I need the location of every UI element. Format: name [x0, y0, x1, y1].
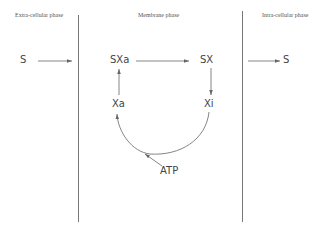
- intracellular-phase-label: Intra-cellular phase: [262, 12, 308, 18]
- diagram-lines: [0, 0, 331, 232]
- membrane-phase-label: Membrane phase: [138, 12, 179, 18]
- node-atp: ATP: [160, 166, 178, 176]
- node-sx: SX: [200, 55, 213, 65]
- node-sxa: SXa: [110, 55, 129, 65]
- node-s-outside: S: [20, 55, 26, 65]
- node-s-inside: S: [283, 55, 289, 65]
- node-xa: Xa: [112, 99, 125, 109]
- membrane-transport-diagram: Extra-cellular phase Membrane phase Intr…: [0, 0, 331, 232]
- extracellular-phase-label: Extra-cellular phase: [15, 12, 63, 18]
- arc-xi-xa: [117, 112, 209, 154]
- node-xi: Xi: [204, 99, 214, 109]
